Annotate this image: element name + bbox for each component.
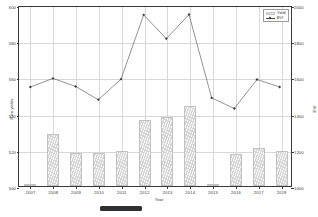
x-tick-label: 2011 xyxy=(117,190,127,195)
y-tick-label-left: 500 xyxy=(9,186,16,191)
line-series-evi xyxy=(19,7,291,186)
x-tick-mark xyxy=(236,186,237,189)
y-tick-label-left: 600 xyxy=(9,5,16,10)
y-tick-label-right: 2000 xyxy=(294,5,304,10)
x-tick-label: 2010 xyxy=(94,190,104,195)
y-tick-label-left: 580 xyxy=(9,41,16,46)
evi-data-point xyxy=(29,86,32,89)
evi-data-point xyxy=(74,85,77,88)
y-tick-label-left: 520 xyxy=(9,149,16,154)
x-tick-mark xyxy=(30,186,31,189)
bottom-progress-bar[interactable] xyxy=(100,206,142,211)
y-tick-label-left: 560 xyxy=(9,77,16,82)
x-tick-label: 2008 xyxy=(48,190,58,195)
x-tick-label: 2017 xyxy=(254,190,264,195)
x-tick-label: 2014 xyxy=(185,190,195,195)
chart-legend: Yield EVI xyxy=(263,9,289,22)
x-tick-label: 2015 xyxy=(208,190,218,195)
y-tick-mark-left xyxy=(17,188,20,189)
legend-item-evi: EVI xyxy=(266,16,286,20)
x-tick-mark xyxy=(99,186,100,189)
plot-area: 600580560540520500 200018001600140012001… xyxy=(18,6,292,187)
x-axis-title: Year xyxy=(155,197,164,202)
evi-data-point xyxy=(52,77,55,80)
x-tick-mark xyxy=(145,186,146,189)
y-tick-label-left: 540 xyxy=(9,113,16,118)
x-tick-mark xyxy=(76,186,77,189)
y-tick-label-right: 1000 xyxy=(294,186,304,191)
chart-figure: Rice yields EVI Year 600580560540520500 … xyxy=(0,0,318,217)
x-tick-mark xyxy=(259,186,260,189)
x-tick-label: 2012 xyxy=(140,190,150,195)
x-tick-label: 2018 xyxy=(277,190,287,195)
y-tick-label-right: 1400 xyxy=(294,113,304,118)
line-marker-swatch-icon xyxy=(266,17,275,20)
x-tick-mark xyxy=(282,186,283,189)
x-tick-mark xyxy=(167,186,168,189)
evi-markers xyxy=(29,13,281,110)
legend-label-evi: EVI xyxy=(277,16,283,20)
evi-data-point xyxy=(278,86,281,89)
y-tick-label-right: 1200 xyxy=(294,149,304,154)
y-tick-label-right: 1600 xyxy=(294,77,304,82)
y-tick-label-right: 1800 xyxy=(294,41,304,46)
x-tick-mark xyxy=(213,186,214,189)
x-tick-label: 2007 xyxy=(25,190,35,195)
x-tick-label: 2009 xyxy=(71,190,81,195)
x-tick-mark xyxy=(53,186,54,189)
x-tick-mark xyxy=(190,186,191,189)
x-tick-mark xyxy=(122,186,123,189)
bar-swatch-icon xyxy=(266,12,275,15)
evi-data-point xyxy=(210,97,213,100)
x-tick-label: 2016 xyxy=(231,190,241,195)
x-tick-label: 2013 xyxy=(162,190,172,195)
evi-polyline xyxy=(30,15,279,109)
y-axis-right-title: EVI xyxy=(312,105,317,112)
